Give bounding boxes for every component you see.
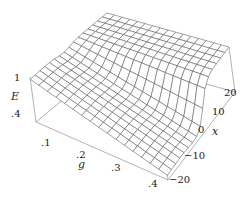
x-tick-label: 20: [224, 87, 237, 98]
e-tick-label: 1: [14, 72, 20, 83]
x-axis-label: x: [212, 125, 219, 138]
surface-plot: E g x 1.4.1.2.3.420100−10−20: [0, 0, 247, 197]
e-tick-label: .4: [11, 108, 21, 119]
x-tick-label: 10: [212, 106, 225, 117]
g-tick-label: .2: [76, 149, 86, 160]
x-tick-label: −10: [184, 150, 205, 161]
box-edge-vertical-right: [229, 47, 235, 92]
g-tick-label: .3: [111, 162, 121, 173]
g-tick-label: .4: [148, 178, 158, 189]
x-tick-label: 0: [198, 124, 204, 135]
e-axis-label: E: [10, 90, 19, 103]
x-tick-label: −20: [169, 174, 190, 185]
g-tick-label: .1: [41, 137, 51, 148]
box-edge-vertical-left: [30, 77, 36, 122]
